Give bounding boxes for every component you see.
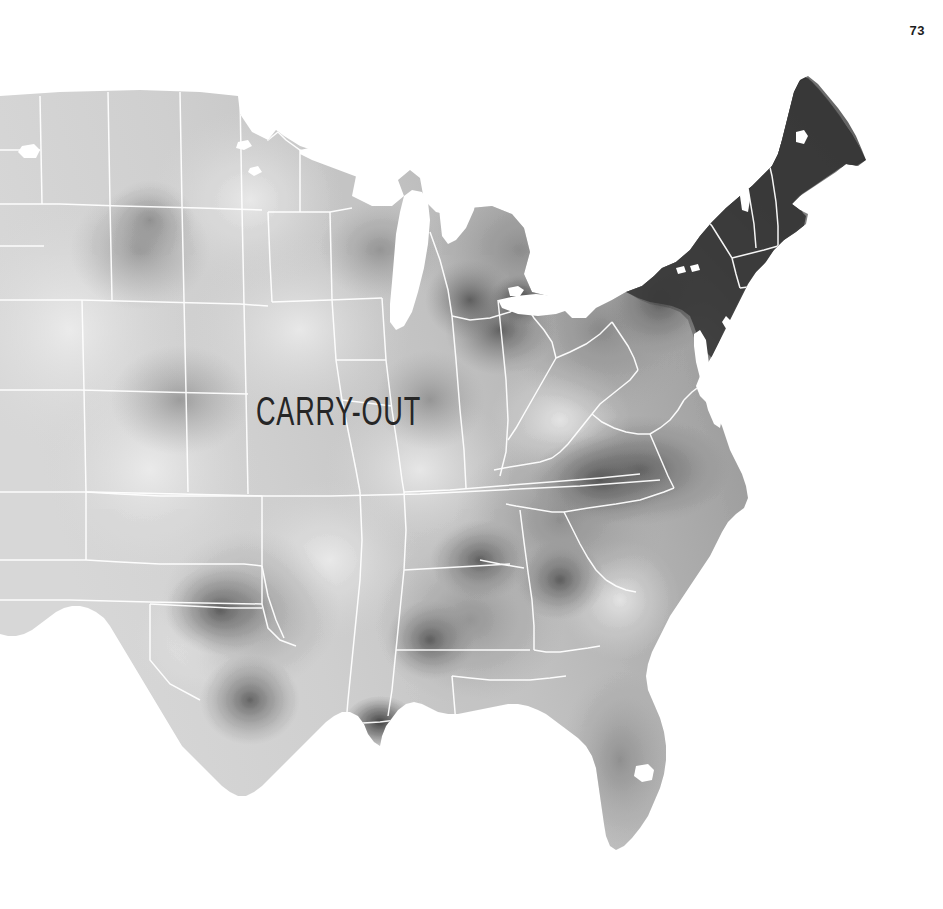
map-label: CARRY-OUT: [256, 391, 359, 432]
map-graphic: [0, 0, 943, 909]
choropleth-map: CARRY-OUT: [0, 0, 943, 909]
book-page: 73: [0, 0, 943, 909]
map-label-text: CARRY-OUT: [256, 391, 421, 432]
